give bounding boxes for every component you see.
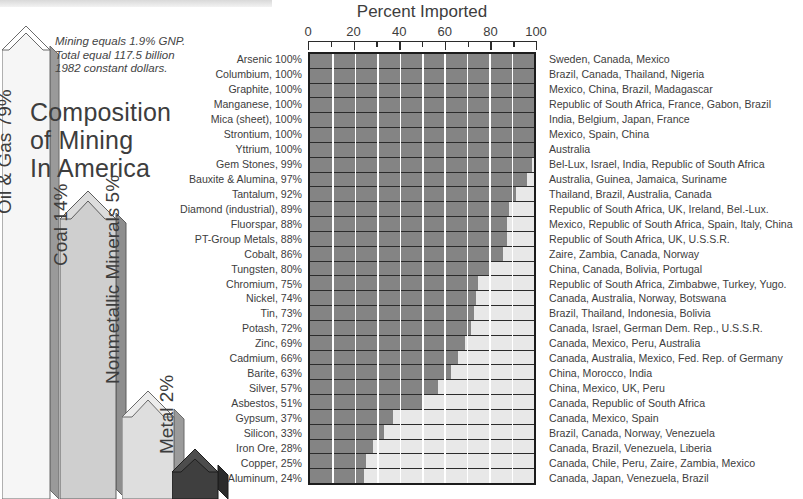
source-countries: Zaire, Zambia, Canada, Norway — [549, 246, 803, 261]
source-countries: Canada, Republic of South Africa — [549, 396, 803, 411]
source-countries: Canada, Australia, Norway, Botswana — [549, 291, 803, 306]
mineral-label: Columbium, 100% — [180, 67, 302, 82]
chart-row — [310, 276, 534, 291]
source-countries: Thailand, Brazil, Australia, Canada — [549, 186, 803, 201]
source-countries: Australia — [549, 142, 803, 157]
bar-75 — [310, 276, 478, 290]
chart-row — [310, 247, 534, 262]
x-tick-80 — [490, 41, 491, 50]
x-axis-ticks — [308, 41, 536, 50]
source-countries: Canada, Israel, German Dem. Rep., U.S.S.… — [549, 321, 803, 336]
bar-37 — [310, 410, 393, 424]
chart-row — [310, 69, 534, 84]
chart-row — [310, 143, 534, 158]
x-tick-label-60: 60 — [438, 24, 452, 39]
arrow-label-metal: Metal 2% — [156, 375, 178, 454]
chart-row — [310, 291, 534, 306]
bar-33 — [310, 425, 384, 439]
source-countries: China, Morocco, India — [549, 366, 803, 381]
source-countries: Canada, Brazil, Venezuela, Liberia — [549, 440, 803, 455]
mineral-label: Chromium, 75% — [180, 276, 302, 291]
mineral-label: Tin, 73% — [180, 306, 302, 321]
bar-88 — [310, 232, 507, 246]
mineral-label: Cobalt, 86% — [180, 246, 302, 261]
x-tick-90 — [513, 41, 514, 47]
chart-row — [310, 306, 534, 321]
source-countries: China, Mexico, UK, Peru — [549, 381, 803, 396]
percent-imported-chart — [308, 52, 536, 485]
source-countries: Canada, Japan, Venezuela, Brazil — [549, 470, 803, 485]
source-countries: Canada, Chile, Peru, Zaire, Zambia, Mexi… — [549, 455, 803, 470]
chart-row — [310, 98, 534, 113]
source-countries: China, Canada, Bolivia, Portugal — [549, 261, 803, 276]
x-tick-30 — [376, 41, 377, 47]
mineral-label: PT-Group Metals, 88% — [180, 231, 302, 246]
mineral-label: Copper, 25% — [180, 455, 302, 470]
x-axis-tick-labels: 020406080100 — [308, 24, 536, 38]
source-countries-column: Sweden, Canada, MexicoBrazil, Canada, Th… — [549, 52, 803, 485]
source-countries: Brazil, Canada, Norway, Venezuela — [549, 425, 803, 440]
bar-100 — [310, 69, 534, 83]
x-tick-label-80: 80 — [483, 24, 497, 39]
mineral-label: Gem Stones, 99% — [180, 157, 302, 172]
chart-row — [310, 202, 534, 217]
bar-100 — [310, 54, 534, 68]
chart-row — [310, 173, 534, 188]
chart-row — [310, 410, 534, 425]
composition-arrow-group: Oil & Gas 79% Coal 14% Nonmetallic Miner… — [0, 12, 205, 499]
mineral-label: Tungsten, 80% — [180, 261, 302, 276]
x-tick-100 — [536, 41, 537, 50]
mineral-label: Zinc, 69% — [180, 336, 302, 351]
bar-74 — [310, 291, 476, 305]
mineral-label: Graphite, 100% — [180, 82, 302, 97]
source-countries: Bel-Lux, Israel, India, Republic of Sout… — [549, 157, 803, 172]
chart-row — [310, 113, 534, 128]
mineral-label: Aluminum, 24% — [180, 470, 302, 485]
mineral-label: Barite, 63% — [180, 366, 302, 381]
chart-row — [310, 395, 534, 410]
bar-57 — [310, 380, 438, 394]
chart-row — [310, 321, 534, 336]
mineral-label: Gypsum, 37% — [180, 411, 302, 426]
source-countries: Republic of South Africa, UK, Ireland, B… — [549, 201, 803, 216]
chart-row — [310, 128, 534, 143]
source-countries: Republic of South Africa, Zimbabwe, Turk… — [549, 276, 803, 291]
source-countries: Canada, Australia, Mexico, Fed. Rep. of … — [549, 351, 803, 366]
bar-100 — [310, 98, 534, 112]
mineral-label: Yttrium, 100% — [180, 142, 302, 157]
bar-51 — [310, 395, 424, 409]
chart-row — [310, 454, 534, 469]
mineral-label-column: Arsenic 100%Columbium, 100%Graphite, 100… — [180, 52, 302, 485]
bar-73 — [310, 306, 474, 320]
source-countries: Canada, Mexico, Peru, Australia — [549, 336, 803, 351]
bar-28 — [310, 440, 373, 454]
chart-row — [310, 351, 534, 366]
chart-row — [310, 365, 534, 380]
x-tick-label-100: 100 — [525, 24, 547, 39]
chart-row — [310, 440, 534, 455]
mineral-label: Fluorspar, 88% — [180, 216, 302, 231]
note-line-1: Mining equals 1.9% GNP. — [55, 35, 230, 49]
chart-row — [310, 158, 534, 173]
mineral-label: Asbestos, 51% — [180, 396, 302, 411]
chart-row — [310, 425, 534, 440]
source-countries: India, Belgium, Japan, France — [549, 112, 803, 127]
bar-80 — [310, 262, 489, 276]
arrow-label-oil-and-gas: Oil & Gas 79% — [0, 89, 16, 214]
bar-88 — [310, 217, 507, 231]
x-tick-label-40: 40 — [392, 24, 406, 39]
source-countries: Canada, Mexico, Spain — [549, 411, 803, 426]
chart-row — [310, 469, 534, 483]
x-tick-70 — [468, 41, 469, 47]
mineral-label: Bauxite & Alumina, 97% — [180, 172, 302, 187]
mineral-label: Iron Ore, 28% — [180, 440, 302, 455]
mineral-label: Manganese, 100% — [180, 97, 302, 112]
bar-24 — [310, 469, 364, 483]
x-tick-20 — [354, 41, 355, 50]
mineral-label: Cadmium, 66% — [180, 351, 302, 366]
x-tick-40 — [399, 41, 400, 50]
mineral-label: Silicon, 33% — [180, 425, 302, 440]
x-tick-10 — [331, 41, 332, 47]
x-tick-50 — [422, 41, 423, 47]
x-tick-label-20: 20 — [346, 24, 360, 39]
